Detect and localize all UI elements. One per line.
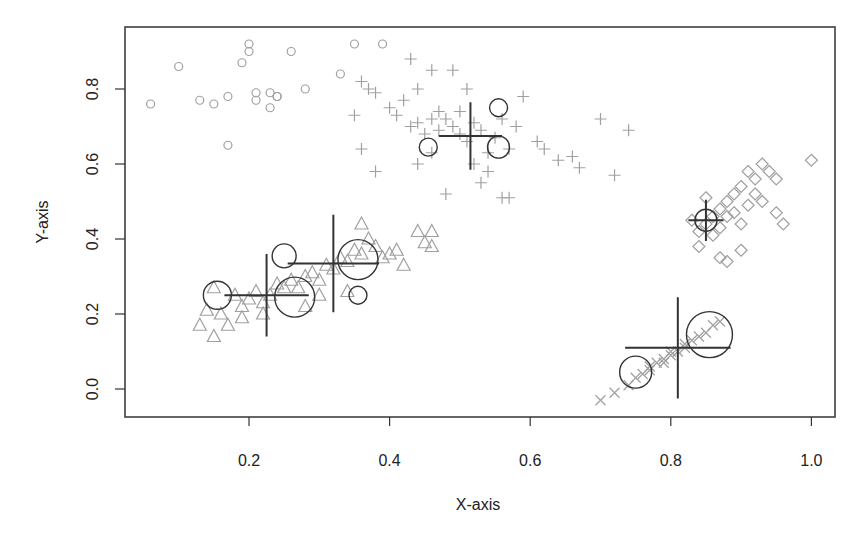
data-point: [440, 113, 452, 125]
data-point: [517, 91, 529, 103]
data-point: [454, 106, 466, 118]
data-point: [595, 113, 607, 125]
data-point: [348, 243, 361, 255]
data-point: [238, 59, 246, 67]
data-point: [334, 251, 347, 263]
cluster-ring: [490, 99, 508, 117]
data-point: [355, 143, 367, 155]
data-point: [425, 225, 438, 237]
data-point: [610, 388, 620, 398]
data-point: [193, 318, 206, 330]
data-point: [207, 281, 220, 293]
data-point: [245, 48, 253, 56]
series-cluster-circles: [147, 40, 387, 149]
data-point: [391, 109, 403, 121]
data-point: [252, 96, 260, 104]
data-point: [531, 136, 543, 148]
data-point: [770, 207, 782, 219]
x-tick-label: 0.8: [660, 452, 682, 469]
data-point: [273, 93, 281, 101]
data-point: [221, 318, 234, 330]
data-point: [418, 236, 431, 248]
data-point: [355, 76, 367, 88]
data-point: [243, 292, 256, 304]
centroid-cross: [224, 254, 308, 337]
data-point: [426, 113, 438, 125]
data-point: [390, 243, 403, 255]
data-point: [411, 225, 424, 237]
data-point: [496, 113, 508, 125]
data-point: [147, 100, 155, 108]
data-point: [245, 40, 253, 48]
data-point: [301, 85, 309, 93]
data-point: [475, 177, 487, 189]
y-axis-label: Y-axis: [34, 201, 51, 244]
data-point: [475, 124, 487, 136]
data-point: [623, 124, 635, 136]
data-point: [552, 154, 564, 166]
data-point: [805, 154, 817, 166]
series-cluster-triangles: [193, 217, 438, 342]
data-point: [503, 192, 515, 204]
series-cluster-plus: [348, 53, 634, 204]
data-point: [397, 258, 410, 270]
data-point: [210, 100, 218, 108]
x-tick-label: 1.0: [800, 452, 822, 469]
y-tick-label: 0.4: [84, 228, 101, 250]
data-point: [735, 244, 747, 256]
data-point: [266, 104, 274, 112]
data-point: [341, 285, 354, 297]
data-point: [447, 121, 459, 133]
data-point: [235, 311, 248, 323]
data-point: [292, 281, 305, 293]
data-point: [433, 124, 445, 136]
data-point: [350, 40, 358, 48]
data-point: [440, 188, 452, 200]
data-point: [693, 241, 705, 253]
data-point: [196, 96, 204, 104]
y-tick-label: 0.8: [84, 78, 101, 100]
data-point: [489, 132, 501, 144]
data-point: [412, 158, 424, 170]
data-point: [405, 53, 417, 65]
cluster-ring: [272, 244, 296, 268]
x-tick-label: 0.6: [519, 452, 541, 469]
data-point: [609, 169, 621, 181]
data-point: [735, 218, 747, 230]
data-point: [287, 48, 295, 56]
y-tick-label: 0.0: [84, 378, 101, 400]
y-tick-label: 0.6: [84, 153, 101, 175]
data-point: [412, 83, 424, 95]
x-tick-label: 0.2: [238, 452, 260, 469]
data-point: [454, 128, 466, 140]
data-point: [370, 166, 382, 178]
data-point: [257, 307, 270, 319]
cluster-ring: [419, 138, 437, 156]
data-point: [336, 70, 344, 78]
data-point: [355, 217, 368, 229]
data-point: [447, 64, 459, 76]
data-point: [224, 93, 232, 101]
plot-frame: [125, 27, 835, 417]
x-axis: 0.20.40.60.81.0: [238, 417, 823, 469]
data-point: [384, 102, 396, 114]
data-point: [379, 40, 387, 48]
x-tick-label: 0.4: [378, 452, 400, 469]
data-point: [566, 151, 578, 163]
cluster-ring: [620, 356, 652, 388]
chart-canvas: 0.20.40.60.81.0 0.00.20.40.60.8 X-axis Y…: [0, 0, 865, 535]
data-point: [742, 199, 754, 211]
data-point: [175, 63, 183, 71]
data-point: [573, 162, 585, 174]
cluster-ring: [686, 312, 732, 358]
data-point: [348, 109, 360, 121]
cluster-ring: [275, 277, 315, 317]
data-point: [461, 83, 473, 95]
data-point: [596, 395, 606, 405]
data-point: [207, 330, 220, 342]
centroid-cross: [439, 102, 502, 170]
scatter-chart: 0.20.40.60.81.0 0.00.20.40.60.8 X-axis Y…: [0, 0, 865, 535]
data-point: [510, 121, 522, 133]
data-point: [777, 218, 789, 230]
data-point: [538, 143, 550, 155]
